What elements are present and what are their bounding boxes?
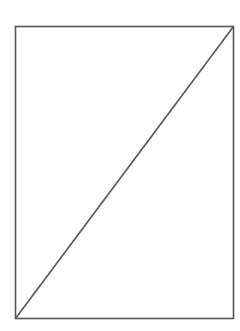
diagram-canvas xyxy=(0,0,240,331)
diagonal-line xyxy=(16,27,234,319)
